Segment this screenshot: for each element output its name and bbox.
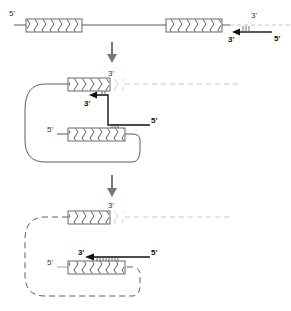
label-3prime-template: 3' — [251, 11, 257, 20]
step-arrow-1-icon — [107, 42, 117, 63]
label-5prime-bottom: 5' — [47, 258, 53, 267]
label-3prime-top: 3' — [108, 201, 114, 210]
primer-1 — [232, 26, 272, 36]
label-primer-3prime: 3' — [228, 35, 234, 44]
label-primer-5prime: 5' — [151, 116, 157, 125]
exon-box-bottom — [68, 261, 125, 274]
panel-3: 3' 5' 3' 5' — [25, 201, 230, 296]
label-3prime-top: 3' — [108, 69, 114, 78]
primer-2-switched — [89, 91, 150, 128]
label-5prime-left: 5' — [9, 9, 15, 18]
exon-box-top — [68, 211, 110, 224]
panel-2: 3' 5' 3' 5' — [25, 69, 240, 162]
template-loop — [25, 84, 140, 162]
label-primer-3prime: 3' — [84, 99, 90, 108]
exon-box-2 — [166, 19, 222, 32]
step-arrow-2-icon — [107, 175, 117, 197]
exon-box-1 — [26, 19, 82, 32]
exon-box-top — [68, 78, 110, 91]
exon-box-bottom — [68, 128, 125, 141]
diagram-canvas: 5' 3' 3' 5' 3' — [0, 0, 291, 311]
exon-box-top-faded — [110, 212, 124, 224]
label-primer-5prime: 5' — [274, 34, 280, 43]
panel-1: 5' 3' 3' 5' — [9, 9, 290, 44]
label-5prime-bottom: 5' — [47, 125, 53, 134]
exon-box-top-faded — [110, 79, 124, 91]
label-primer-3prime: 3' — [78, 248, 84, 257]
label-primer-5prime: 5' — [151, 248, 157, 257]
primer-3-annealed — [85, 254, 150, 262]
